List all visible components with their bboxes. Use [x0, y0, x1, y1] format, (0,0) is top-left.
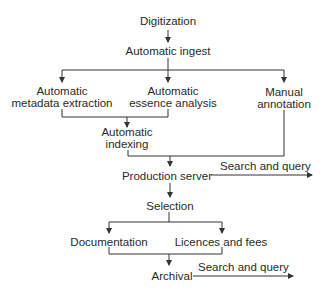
node-line: metadata extraction: [11, 97, 112, 109]
node-selection: Selection: [146, 200, 193, 212]
node-line: Automatic: [11, 85, 112, 97]
node-documentation: Documentation: [70, 236, 147, 248]
edge-label-production-search: Search and query: [220, 160, 311, 172]
node-line: Manual: [257, 86, 311, 98]
node-production-server: Production server: [122, 170, 212, 182]
node-manual-annotation: Manual annotation: [257, 86, 311, 110]
node-line: annotation: [257, 98, 311, 110]
edge-label-archival-search: Search and query: [198, 261, 289, 273]
node-line: essence analysis: [129, 97, 217, 109]
node-line: Automatic: [129, 85, 217, 97]
node-metadata-extraction: Automatic metadata extraction: [11, 85, 112, 109]
node-line: indexing: [101, 138, 152, 150]
node-archival: Archival: [152, 270, 193, 282]
node-licences-fees: Licences and fees: [175, 236, 268, 248]
node-line: Automatic: [101, 126, 152, 138]
node-essence-analysis: Automatic essence analysis: [129, 85, 217, 109]
node-automatic-ingest: Automatic ingest: [125, 45, 210, 57]
node-automatic-indexing: Automatic indexing: [101, 126, 152, 150]
node-digitization: Digitization: [140, 15, 196, 27]
